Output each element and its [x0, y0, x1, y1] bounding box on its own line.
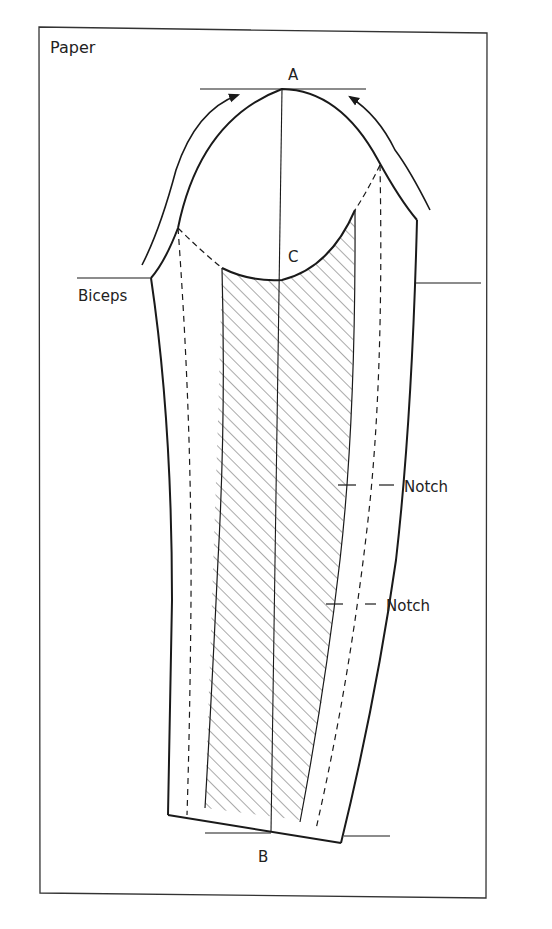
wrist-edge [168, 815, 341, 843]
sleeve-outer-left [151, 278, 172, 815]
dashed-seam-left [178, 228, 191, 815]
sleeve-pattern-drawing [0, 0, 552, 929]
point-a-label: A [288, 68, 298, 83]
arrow-left-cap [142, 95, 238, 265]
biceps-label: Biceps [78, 289, 127, 304]
sleeve-cap-curve [151, 89, 417, 278]
dashed-cap-left [178, 228, 222, 268]
paper-label: Paper [50, 40, 95, 56]
hatched-panel [205, 210, 355, 820]
notch-lower-label: Notch [386, 599, 430, 614]
point-c-label: C [288, 250, 298, 265]
diagram-canvas: Paper A C B Biceps Notch Notch [0, 0, 552, 929]
dashed-cap-right [355, 165, 380, 210]
point-b-label: B [258, 850, 268, 865]
arrow-right-cap [350, 97, 430, 210]
notch-upper-label: Notch [404, 480, 448, 495]
